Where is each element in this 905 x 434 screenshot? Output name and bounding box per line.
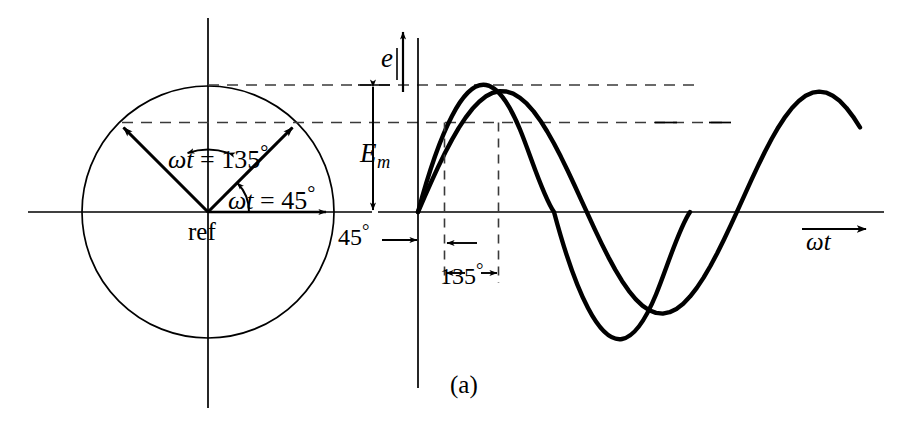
phase-135-degree: ° (476, 259, 483, 280)
reference-label: ref (188, 219, 216, 244)
phase-135-value: 135 (440, 263, 476, 289)
phasor-diagram-group (28, 18, 722, 408)
phase-marker-135: 135° (440, 261, 483, 288)
amplitude-symbol: E (360, 138, 377, 168)
figure-caption: (a) (450, 372, 478, 397)
phasor-135-eq: = (194, 145, 222, 174)
phasor-45-value: 45 (281, 186, 307, 215)
phasor-label-45: ωt = 45° (228, 183, 315, 214)
phasor-135-value: 135 (221, 145, 260, 174)
phasor-45-omega: ωt (228, 186, 254, 215)
phasor-45-eq: = (254, 186, 282, 215)
phasor-135-omega: ωt (168, 145, 194, 174)
waveform-y-axis-label: e (381, 45, 393, 72)
phasor-label-135: ωt = 135° (168, 142, 268, 173)
figure-drawing (0, 0, 905, 434)
waveform-x-axis-label: ωt (806, 229, 831, 254)
figure-container: ωt = 135° ωt = 45° ref e Em 45° 135° ωt … (0, 0, 905, 434)
phasor-135-degree: ° (260, 141, 268, 163)
phase-marker-45: 45° (338, 222, 369, 249)
amplitude-label: Em (360, 140, 390, 171)
sine-curve-accurate (418, 91, 860, 313)
phase-45-value: 45 (338, 224, 362, 250)
amplitude-subscript: m (377, 152, 390, 172)
phasor-45-degree: ° (307, 182, 315, 204)
phase-45-degree: ° (362, 220, 369, 241)
